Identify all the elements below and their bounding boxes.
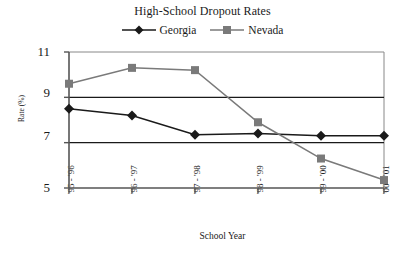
dropout-rates-chart: High-School Dropout Rates Georgia Nevada… <box>0 0 405 253</box>
data-point-georgia-3 <box>253 129 263 139</box>
data-point-nevada-2 <box>191 66 199 74</box>
data-point-nevada-3 <box>254 118 262 126</box>
data-point-nevada-1 <box>128 64 136 72</box>
series-line-georgia <box>69 109 384 136</box>
plot-area <box>0 0 405 253</box>
data-point-georgia-2 <box>190 130 200 140</box>
data-point-georgia-5 <box>379 131 389 141</box>
data-point-nevada-4 <box>317 155 325 163</box>
data-point-georgia-0 <box>64 104 74 114</box>
series-line-nevada <box>69 68 384 180</box>
data-point-georgia-1 <box>127 110 137 120</box>
data-point-nevada-0 <box>65 80 73 88</box>
data-point-georgia-4 <box>316 131 326 141</box>
data-point-nevada-5 <box>380 176 388 184</box>
